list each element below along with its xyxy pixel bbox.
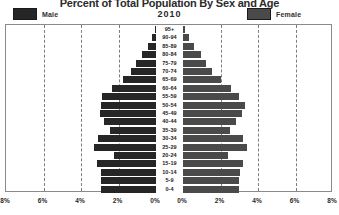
x-axis-tick-label: 0%	[177, 197, 186, 204]
bar-male	[148, 43, 156, 50]
x-axis-tick-label: 6%	[38, 197, 47, 204]
bar-female	[183, 127, 230, 134]
age-group-label: 85-89	[156, 42, 183, 50]
bar-female	[183, 177, 239, 184]
bar-female	[183, 93, 239, 100]
bar-male	[101, 186, 156, 193]
bar-female	[183, 76, 221, 83]
x-axis-tick-label: 8%	[327, 197, 336, 204]
x-axis-tick-label: 2%	[215, 197, 224, 204]
x-axis-tick-label: 4%	[252, 197, 261, 204]
age-group-label: 75-79	[156, 59, 183, 67]
pyramid-row: 25-29	[6, 143, 331, 151]
pyramid-row: 50-54	[6, 101, 331, 109]
bar-male	[102, 93, 156, 100]
bar-female	[183, 144, 247, 151]
pyramid-row: 10-14	[6, 168, 331, 176]
age-group-label: 15-19	[156, 159, 183, 167]
x-axis-tick-label: 4%	[75, 197, 84, 204]
bar-female	[183, 152, 228, 159]
bar-female	[183, 186, 239, 193]
x-axis-tick-label: 2%	[113, 197, 122, 204]
bar-female	[183, 160, 243, 167]
bar-female	[183, 60, 206, 67]
age-group-label: 45-49	[156, 109, 183, 117]
bar-male	[123, 76, 156, 83]
bar-male	[94, 144, 156, 151]
bar-male	[136, 60, 156, 67]
age-group-label: 60-64	[156, 84, 183, 92]
age-group-label: 40-44	[156, 117, 183, 125]
age-group-label: 95+	[156, 25, 183, 33]
age-group-label: 25-29	[156, 143, 183, 151]
bar-male	[97, 160, 156, 167]
bar-female	[183, 102, 245, 109]
x-axis-tick-label: 6%	[290, 197, 299, 204]
bar-male	[101, 177, 156, 184]
age-group-label: 90-94	[156, 33, 183, 41]
plot-frame: 95+90-9485-8980-8475-7970-7465-6960-6455…	[5, 24, 332, 192]
bar-male	[101, 169, 156, 176]
pyramid-row: 65-69	[6, 75, 331, 83]
pyramid-row: 60-64	[6, 84, 331, 92]
bar-male	[131, 68, 156, 75]
bar-male	[104, 118, 156, 125]
pyramid-row: 35-39	[6, 126, 331, 134]
x-axis-tick-label: 8%	[0, 197, 9, 204]
age-group-label: 5-9	[156, 176, 183, 184]
age-group-label: 0-4	[156, 185, 183, 193]
legend-item-female: Female	[247, 8, 301, 20]
bar-female	[183, 135, 243, 142]
legend-swatch-female	[247, 8, 271, 20]
age-group-label: 10-14	[156, 168, 183, 176]
pyramid-row: 0-4	[6, 185, 331, 193]
bar-female	[183, 118, 236, 125]
bar-female	[183, 26, 185, 33]
bar-female	[183, 68, 212, 75]
bar-female	[183, 110, 242, 117]
bar-female	[183, 34, 189, 41]
bar-male	[110, 127, 156, 134]
pyramid-row: 55-59	[6, 92, 331, 100]
pyramid-row: 15-19	[6, 159, 331, 167]
bar-male	[98, 135, 156, 142]
bar-female	[183, 169, 240, 176]
pyramid-row: 5-9	[6, 176, 331, 184]
pyramid-row: 80-84	[6, 50, 331, 58]
pyramid-row: 30-34	[6, 134, 331, 142]
bar-male	[142, 51, 156, 58]
age-group-label: 80-84	[156, 50, 183, 58]
bar-male	[114, 152, 156, 159]
age-group-label: 20-24	[156, 151, 183, 159]
x-axis-tick-label: 0%	[150, 197, 159, 204]
pyramid-row: 45-49	[6, 109, 331, 117]
age-group-label: 70-74	[156, 67, 183, 75]
legend-label-female: Female	[276, 11, 301, 18]
pyramid-row: 95+	[6, 25, 331, 33]
age-group-label: 65-69	[156, 75, 183, 83]
bar-rows: 95+90-9485-8980-8475-7970-7465-6960-6455…	[6, 25, 331, 191]
pyramid-row: 75-79	[6, 59, 331, 67]
population-pyramid-chart: Percent of Total Population By Sex and A…	[0, 0, 339, 215]
x-axis: 8%6%4%2%0%0%2%4%6%8%	[5, 193, 332, 213]
pyramid-row: 85-89	[6, 42, 331, 50]
bar-male	[100, 110, 156, 117]
bar-male	[112, 85, 156, 92]
pyramid-row: 70-74	[6, 67, 331, 75]
bar-female	[183, 51, 201, 58]
bar-male	[101, 102, 156, 109]
bar-female	[183, 43, 194, 50]
plot-area: 95+90-9485-8980-8475-7970-7465-6960-6455…	[6, 25, 331, 191]
age-group-label: 50-54	[156, 101, 183, 109]
pyramid-row: 90-94	[6, 33, 331, 41]
bar-female	[183, 85, 231, 92]
pyramid-row: 20-24	[6, 151, 331, 159]
age-group-label: 35-39	[156, 126, 183, 134]
pyramid-row: 40-44	[6, 117, 331, 125]
age-group-label: 55-59	[156, 92, 183, 100]
age-group-label: 30-34	[156, 134, 183, 142]
